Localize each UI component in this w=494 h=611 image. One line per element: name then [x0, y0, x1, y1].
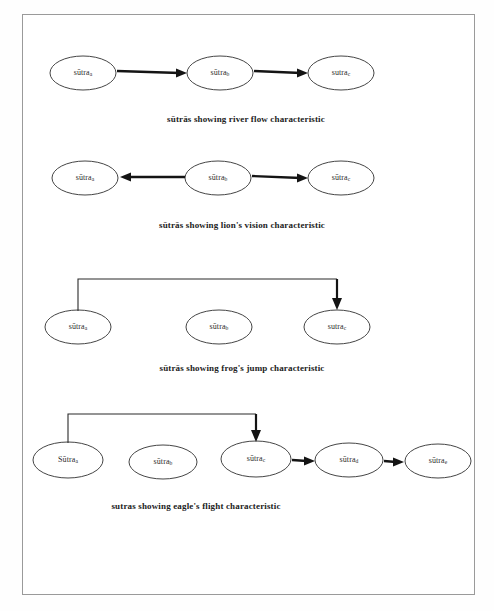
row-frog-jump: sūtraa sūtrab sutrac sūtrās showing [45, 279, 370, 373]
node-eagle-a[interactable]: Sūtraa [33, 442, 103, 478]
caption-eagle-flight: sutras showing eagle's flight characteri… [111, 501, 280, 511]
node-label-sub: d [356, 458, 359, 464]
caption-lion-vision: sūtrās showing lion's vision characteris… [159, 220, 325, 230]
node-eagle-c[interactable]: sūtrac [221, 441, 291, 477]
node-label-sub: e [445, 459, 448, 465]
row-river-flow: sūtraa sūtrab sutrac [50, 56, 374, 124]
node-label-base: sūtra [154, 457, 170, 466]
node-label-base: sūtra [332, 173, 348, 182]
node-eagle-d[interactable]: sūtrad [315, 443, 383, 477]
node-label-sub: b [225, 176, 228, 182]
node-label-sub: b [170, 460, 173, 466]
node-lion-a[interactable]: sūtraa [52, 161, 118, 195]
node-label-base: Sūtra [58, 455, 76, 464]
svg-text:Sūtraa: Sūtraa [58, 455, 78, 464]
arrow-river-a-to-b [117, 69, 187, 78]
node-frog-b[interactable]: sūtrab [186, 310, 252, 344]
node-label-sub: a [75, 458, 78, 464]
node-river-b[interactable]: sūtrab [187, 56, 253, 90]
diagram-canvas: sūtraa sūtrab sutrac [0, 0, 494, 611]
node-label-sub: a [92, 176, 95, 182]
node-river-c[interactable]: sutrac [308, 56, 374, 90]
node-label-sub: a [90, 71, 93, 77]
node-label-base: sūtra [74, 68, 90, 77]
node-label-sub: b [226, 325, 229, 331]
arrow-river-b-to-c [254, 69, 308, 78]
node-label-sub: b [227, 71, 230, 77]
arrow-eagle-a-to-c [68, 414, 261, 443]
arrow-lion-b-to-c [252, 174, 308, 183]
node-label-sub: c [344, 325, 347, 331]
node-eagle-b[interactable]: sūtrab [129, 445, 197, 479]
node-label-sub: c [263, 457, 266, 463]
row-lion-vision: sūtraa sūtrab sūtrac [52, 161, 374, 230]
node-label-base: sūtra [209, 173, 225, 182]
node-label-sub: c [348, 176, 351, 182]
row-eagle-flight: Sūtraa sūtrab sūtrac sūtrad [33, 414, 471, 511]
arrow-frog-a-to-c [78, 279, 342, 311]
figure-root: sūtraa sūtrab sutrac [0, 0, 494, 611]
arrow-eagle-d-to-e [384, 458, 404, 467]
node-river-a[interactable]: sūtraa [50, 56, 116, 90]
node-frog-c[interactable]: sutrac [304, 310, 370, 344]
node-label-base: sūtra [69, 322, 85, 331]
node-lion-c[interactable]: sūtrac [308, 161, 374, 195]
node-label-base: sūtra [76, 173, 92, 182]
node-frog-a[interactable]: sūtraa [45, 310, 111, 344]
node-label-base: sutra [332, 68, 348, 77]
node-label-base: sutra [328, 322, 344, 331]
caption-river-flow: sūtrās showing river flow characteristic [167, 114, 325, 124]
node-label-sub: c [348, 71, 351, 77]
arrow-lion-b-to-a [120, 173, 185, 182]
node-label-base: sūtra [210, 322, 226, 331]
node-eagle-e[interactable]: sūtrae [405, 444, 471, 478]
arrow-eagle-c-to-d [292, 457, 315, 466]
node-label-base: sūtra [211, 68, 227, 77]
node-label-sub: a [85, 325, 88, 331]
node-label-base: sūtra [340, 455, 356, 464]
caption-frog-jump: sūtrās showing frog's jump characteristi… [160, 363, 325, 373]
node-label-base: sūtra [247, 454, 263, 463]
node-lion-b[interactable]: sūtrab [185, 161, 251, 195]
node-label-base: sūtra [429, 456, 445, 465]
